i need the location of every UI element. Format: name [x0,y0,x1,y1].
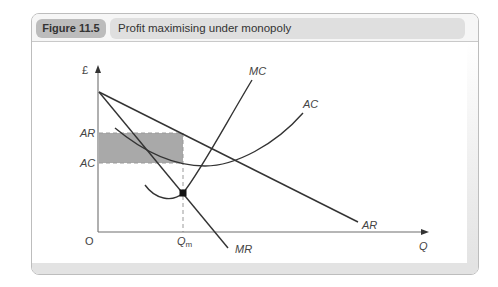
mc-label: MC [249,65,266,77]
profit-area [99,133,183,163]
y-tick-ar: AR [79,127,95,139]
y-tick-ac: AC [79,157,95,169]
x-axis-label: Q [419,240,428,252]
ac-label: AC [302,98,318,110]
monopoly-chart: £ AR AC O Qm Q MC AC AR MR [0,0,498,287]
x-axis-arrow-icon [421,229,429,235]
mr-curve [99,92,228,248]
equilibrium-point [180,190,187,197]
x-tick-subscript: m [186,240,193,249]
origin-label: O [85,235,94,247]
y-axis-arrow-icon [95,65,101,73]
x-tick-qm: Qm [177,235,193,249]
y-axis-label: £ [82,64,88,76]
mr-label: MR [235,243,252,255]
ar-label: AR [361,219,377,231]
